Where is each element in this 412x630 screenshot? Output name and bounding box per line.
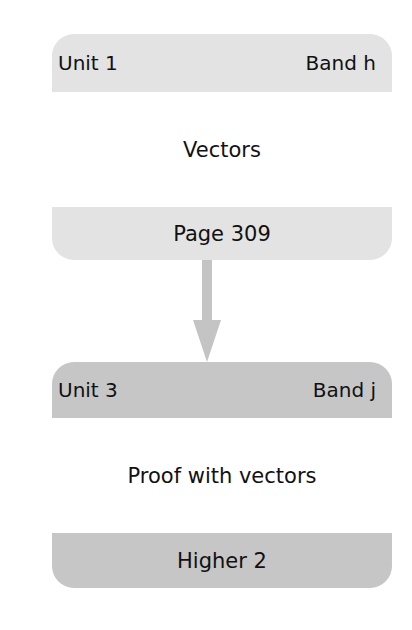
band-label: Band j — [313, 378, 376, 402]
unit-label: Unit 3 — [58, 378, 118, 402]
node-title: Proof with vectors — [52, 418, 392, 533]
node-header: Unit 3 Band j — [52, 362, 392, 418]
node-footer: Higher 2 — [52, 533, 392, 588]
node-proof-with-vectors: Unit 3 Band j Proof with vectors Higher … — [52, 362, 392, 588]
